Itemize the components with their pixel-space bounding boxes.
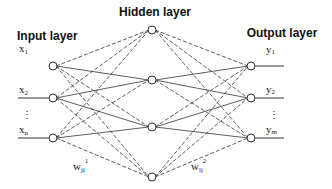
output-label-m: ym xyxy=(266,123,278,136)
hidden-layer-title: Hidden layer xyxy=(119,5,191,19)
hidden-node-4 xyxy=(148,173,156,181)
weight-label-input-hidden: wji1 xyxy=(73,157,89,174)
weight-label-hidden-output: wlj2 xyxy=(191,157,207,174)
input-layer-title: Input layer xyxy=(17,29,78,43)
output-node-1 xyxy=(247,62,255,70)
hidden-node-3 xyxy=(148,123,156,131)
input-label-n: xn xyxy=(19,123,29,137)
neural-network-diagram: Hidden layer Input layer Output layer x1… xyxy=(0,0,332,189)
hidden-node-1 xyxy=(148,26,156,34)
input-label-2: x2 xyxy=(19,83,29,97)
input-ellipsis: ⋮ xyxy=(22,109,32,120)
output-label-1: y1 xyxy=(266,43,276,56)
output-label-2: y2 xyxy=(266,83,276,96)
output-layer-title: Output layer xyxy=(247,26,318,40)
hidden-node-2 xyxy=(148,76,156,84)
output-ellipsis: ⋮ xyxy=(269,109,279,120)
input-label-1: x1 xyxy=(19,42,29,56)
input-node-1 xyxy=(49,62,57,70)
output-node-m xyxy=(247,134,255,142)
input-node-2 xyxy=(49,94,57,102)
input-node-n xyxy=(49,134,57,142)
output-node-2 xyxy=(247,94,255,102)
edges-input-hidden xyxy=(56,30,149,177)
input-nodes xyxy=(49,62,57,142)
output-nodes xyxy=(247,62,255,142)
hidden-nodes xyxy=(148,26,156,181)
edges-hidden-output xyxy=(155,30,248,177)
